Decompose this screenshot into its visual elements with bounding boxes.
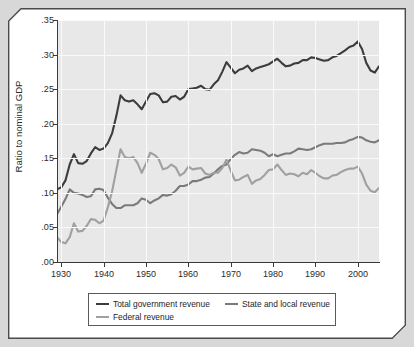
gridline-x-1930 <box>61 20 62 262</box>
x-tick-label-1970: 1970 <box>221 269 241 279</box>
x-tick-label-1950: 1950 <box>136 269 156 279</box>
y-tick-label-010: .10 <box>41 188 54 198</box>
x-tick-1930 <box>61 263 62 267</box>
legend-label: Federal revenue <box>113 312 174 322</box>
legend-swatch-icon <box>96 303 109 306</box>
x-tick-1960 <box>188 263 189 267</box>
gridline-x-1940 <box>104 20 105 262</box>
y-tick-label-035: .35 <box>41 15 54 25</box>
gridline-x-1980 <box>273 20 274 262</box>
x-tick-1940 <box>104 263 105 267</box>
legend: Total government revenue State and local… <box>88 293 336 326</box>
x-tick-1980 <box>273 263 274 267</box>
gridline-y-025 <box>57 89 379 90</box>
gridline-y-015 <box>57 158 379 159</box>
gridline-y-005 <box>57 227 379 228</box>
y-tick-label-020: .20 <box>41 119 54 129</box>
gridline-x-1990 <box>315 20 316 262</box>
x-tick-label-1930: 1930 <box>51 269 71 279</box>
x-tick-label-2000: 2000 <box>348 269 368 279</box>
y-tick-label-005: .05 <box>41 222 54 232</box>
legend-swatch-icon <box>225 303 238 306</box>
series-lines <box>57 20 379 262</box>
x-axis-line <box>57 262 380 263</box>
y-axis-title: Ratio to nominal GDP <box>13 47 24 207</box>
y-tick-label-030: .30 <box>41 50 54 60</box>
x-tick-1970 <box>231 263 232 267</box>
gridline-y-035 <box>57 20 379 21</box>
gridline-x-2000 <box>358 20 359 262</box>
gridline-y-030 <box>57 55 379 56</box>
series-line-0 <box>57 41 379 189</box>
x-tick-2000 <box>358 263 359 267</box>
x-tick-label-1960: 1960 <box>178 269 198 279</box>
gridline-y-020 <box>57 124 379 125</box>
legend-label: Total government revenue <box>113 299 210 309</box>
chart-root: .35 .30 .25 .20 .15 .10 .05 .00 1930 194… <box>0 0 414 347</box>
x-tick-label-1980: 1980 <box>263 269 283 279</box>
y-tick-label-025: .25 <box>41 84 54 94</box>
series-line-2 <box>57 149 379 243</box>
gridline-x-1970 <box>231 20 232 262</box>
gridline-x-1960 <box>188 20 189 262</box>
y-tick-label-000: .00 <box>41 257 54 267</box>
x-tick-1950 <box>146 263 147 267</box>
legend-label: State and local revenue <box>242 299 330 309</box>
gridline-x-1950 <box>146 20 147 262</box>
x-tick-label-1990: 1990 <box>305 269 325 279</box>
legend-swatch-icon <box>96 316 109 319</box>
x-tick-label-1940: 1940 <box>94 269 114 279</box>
plot-area <box>57 20 379 262</box>
legend-entry-total-government-revenue[interactable]: Total government revenue <box>96 299 210 309</box>
y-tick-label-015: .15 <box>41 153 54 163</box>
y-axis-line <box>57 20 58 263</box>
x-tick-1990 <box>315 263 316 267</box>
legend-entry-state-and-local-revenue[interactable]: State and local revenue <box>225 299 330 309</box>
legend-entry-federal-revenue[interactable]: Federal revenue <box>96 312 174 322</box>
gridline-y-010 <box>57 193 379 194</box>
